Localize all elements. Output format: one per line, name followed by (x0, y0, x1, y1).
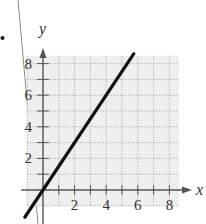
x-tick-label: 4 (102, 197, 110, 213)
x-axis-label: x (195, 181, 203, 198)
plot-background (27, 56, 179, 206)
y-tick-label: 6 (25, 87, 33, 103)
y-axis-arrow-icon (40, 48, 47, 58)
y-axis-label: y (37, 20, 47, 38)
x-tick-label: 2 (71, 197, 79, 213)
bullet-marker (1, 36, 5, 40)
x-tick-label: 6 (134, 197, 142, 213)
x-tick-label: 8 (166, 197, 174, 213)
x-axis-arrow-icon (182, 187, 192, 194)
y-tick-label: 4 (25, 119, 33, 135)
line-chart: 24682468 x y (0, 0, 206, 224)
y-tick-label: 8 (25, 56, 33, 72)
y-tick-label: 2 (25, 150, 33, 166)
